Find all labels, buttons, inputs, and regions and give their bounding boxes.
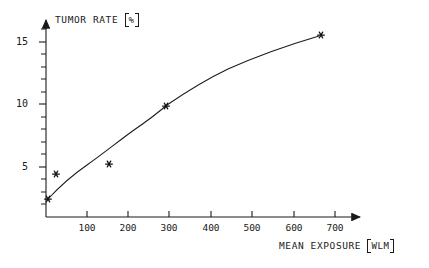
chart-figure: 15 10 5 100 200 300 400 500 600 700 TUMO…	[0, 0, 429, 268]
data-point-markers	[45, 32, 325, 202]
y-tick-label-10: 10	[6, 98, 28, 109]
y-axis-title: TUMOR RATE %	[55, 14, 139, 25]
x-tick-label-100: 100	[72, 222, 102, 233]
data-point	[318, 32, 325, 38]
x-tick-label-200: 200	[113, 222, 143, 233]
x-axis-title: MEAN EXPOSURE WLM	[279, 240, 394, 251]
y-tick-label-15: 15	[6, 36, 28, 47]
x-tick-label-500: 500	[237, 222, 267, 233]
fitted-curve	[48, 36, 319, 199]
x-axis-title-text: MEAN EXPOSURE	[279, 240, 361, 251]
x-tick-label-300: 300	[154, 222, 184, 233]
y-minor-ticks	[41, 29, 46, 204]
x-major-ticks	[87, 211, 335, 217]
x-tick-label-400: 400	[196, 222, 226, 233]
x-tick-label-700: 700	[320, 222, 350, 233]
y-major-ticks	[39, 42, 46, 167]
x-axis-unit: WLM	[367, 241, 393, 251]
data-point	[53, 171, 60, 177]
x-tick-label-600: 600	[279, 222, 309, 233]
y-axis-unit: %	[125, 15, 139, 25]
data-point	[106, 161, 113, 167]
y-tick-label-5: 5	[6, 161, 28, 172]
y-axis-title-text: TUMOR RATE	[55, 14, 118, 25]
